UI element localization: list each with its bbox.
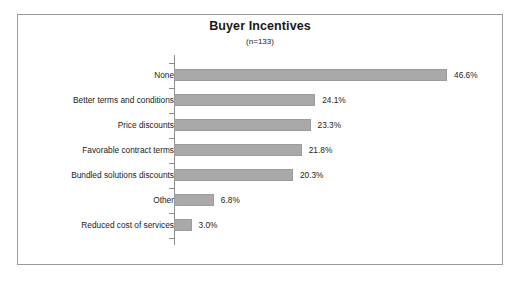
category-label: Price discounts: [118, 113, 174, 138]
bar: [174, 169, 293, 181]
axis-tick: [169, 88, 174, 89]
bar-value-label: 23.3%: [318, 113, 342, 138]
bar-row: Price discounts23.3%: [18, 113, 504, 138]
axis-tick: [169, 138, 174, 139]
bar: [174, 194, 214, 206]
category-label: Bundled solutions discounts: [71, 163, 174, 188]
bar: [174, 144, 302, 156]
bar-value-label: 46.6%: [454, 63, 478, 88]
bar-row: Bundled solutions discounts20.3%: [18, 163, 504, 188]
bar-track: 46.6%: [174, 63, 504, 88]
bar-track: 23.3%: [174, 113, 504, 138]
axis-tick: [169, 213, 174, 214]
bar: [174, 119, 311, 131]
bar: [174, 69, 447, 81]
bar-track: 3.0%: [174, 213, 504, 238]
category-label: Favorable contract terms: [82, 138, 174, 163]
category-label: Better terms and conditions: [73, 88, 174, 113]
bar-value-label: 24.1%: [322, 88, 346, 113]
bar-value-label: 20.3%: [300, 163, 324, 188]
bar-track: 24.1%: [174, 88, 504, 113]
plot-area: None46.6%Better terms and conditions24.1…: [18, 63, 504, 253]
chart-frame: Buyer Incentives (n=133) None46.6%Better…: [17, 14, 503, 265]
bar-track: 21.8%: [174, 138, 504, 163]
axis-tick: [169, 188, 174, 189]
category-label: None: [154, 63, 174, 88]
bar-value-label: 21.8%: [309, 138, 333, 163]
bar-track: 20.3%: [174, 163, 504, 188]
axis-tick: [169, 63, 174, 64]
bar-track: 6.8%: [174, 188, 504, 213]
axis-tick: [169, 113, 174, 114]
category-label: Other: [153, 188, 174, 213]
bar-row: Better terms and conditions24.1%: [18, 88, 504, 113]
category-label: Reduced cost of services: [81, 213, 174, 238]
bar-row: Favorable contract terms21.8%: [18, 138, 504, 163]
page-title: Buyer Incentives: [18, 19, 502, 34]
bar-row: None46.6%: [18, 63, 504, 88]
bar-value-label: 6.8%: [221, 188, 240, 213]
bar: [174, 94, 315, 106]
chart-title-block: Buyer Incentives (n=133): [18, 19, 502, 48]
bar-row: Reduced cost of services3.0%: [18, 213, 504, 238]
axis-tick: [169, 163, 174, 164]
axis-tick: [169, 238, 174, 239]
bar-row: Other6.8%: [18, 188, 504, 213]
bar-value-label: 3.0%: [199, 213, 218, 238]
bar: [174, 219, 192, 231]
chart-subtitle: (n=133): [18, 36, 502, 48]
